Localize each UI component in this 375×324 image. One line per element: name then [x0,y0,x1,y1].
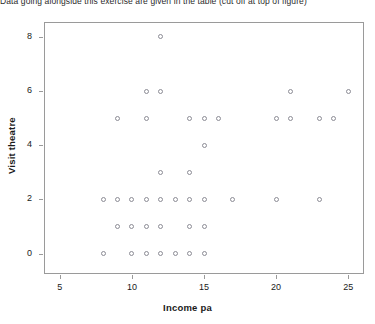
y-axis-label: Visit theatre [6,98,17,112]
data-point [346,89,351,94]
scatter-plot-figure: Data going alongside this exercise are g… [0,0,375,324]
y-tick-label-2: 2 [12,193,32,203]
data-point [274,116,279,121]
x-tick-mark-10 [132,275,133,279]
y-tick-mark-8 [39,37,43,38]
data-point [144,224,149,229]
data-point [144,116,149,121]
x-tick-mark-25 [348,275,349,279]
x-tick-mark-20 [276,275,277,279]
x-tick-label-20: 20 [264,282,288,292]
y-tick-mark-6 [39,91,43,92]
data-point [288,116,293,121]
x-tick-label-5: 5 [48,282,72,292]
x-tick-label-15: 15 [192,282,216,292]
data-point [158,89,163,94]
data-point [202,197,207,202]
data-point [115,116,120,121]
data-point [144,89,149,94]
x-axis-label: Income pa [0,302,375,313]
data-point [274,197,279,202]
data-point [317,116,322,121]
data-point [144,251,149,256]
x-tick-label-25: 25 [336,282,360,292]
y-tick-label-6: 6 [12,85,32,95]
data-point [202,224,207,229]
plot-area [44,22,364,274]
y-tick-mark-0 [39,254,43,255]
y-tick-mark-4 [39,145,43,146]
data-point [331,116,336,121]
data-point [173,251,178,256]
data-point [202,143,207,148]
figure-caption: Data going alongside this exercise are g… [0,0,375,6]
data-point [216,116,221,121]
x-tick-mark-5 [60,275,61,279]
y-tick-label-0: 0 [12,248,32,258]
data-point [144,197,149,202]
y-tick-label-8: 8 [12,31,32,41]
y-tick-label-4: 4 [12,139,32,149]
data-point [101,197,106,202]
data-point [202,116,207,121]
data-point [288,89,293,94]
x-tick-mark-15 [204,275,205,279]
x-tick-label-10: 10 [120,282,144,292]
data-point [202,251,207,256]
data-point [173,197,178,202]
data-point [101,251,106,256]
data-point [187,116,192,121]
data-point [115,197,120,202]
data-point [187,170,192,175]
y-tick-mark-2 [39,199,43,200]
data-point [317,197,322,202]
